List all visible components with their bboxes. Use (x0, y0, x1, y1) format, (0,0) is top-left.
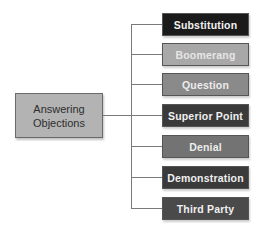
child-node-substitution: Substitution (162, 13, 249, 36)
child-node-label: Demonstration (167, 172, 244, 184)
child-node-label: Substitution (174, 19, 238, 31)
connector-branch (131, 24, 162, 25)
connector-root-horizontal (103, 115, 131, 116)
child-node-third-party: Third Party (162, 197, 249, 220)
child-node-label: Denial (189, 141, 222, 153)
child-node-label: Superior Point (168, 110, 243, 122)
child-node-demonstration: Demonstration (162, 166, 249, 189)
child-node-question: Question (162, 73, 249, 96)
child-node-label: Third Party (177, 203, 235, 215)
connector-branch (131, 146, 162, 147)
root-label-line2: Objections (33, 116, 85, 130)
child-node-denial: Denial (162, 135, 249, 158)
root-node-answering-objections: Answering Objections (15, 93, 103, 138)
connector-branch (131, 177, 162, 178)
connector-branch (131, 54, 162, 55)
child-node-boomerang: Boomerang (162, 43, 249, 66)
connector-trunk-vertical (131, 24, 132, 209)
child-node-label: Boomerang (175, 49, 235, 61)
child-node-superior-point: Superior Point (162, 104, 249, 127)
connector-branch (131, 84, 162, 85)
root-label-line1: Answering (33, 102, 85, 116)
connector-branch (131, 208, 162, 209)
child-node-label: Question (182, 79, 229, 91)
connector-branch (131, 115, 162, 116)
